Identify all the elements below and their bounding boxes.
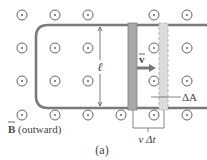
field-dot-icon bbox=[87, 14, 89, 16]
field-dot-icon bbox=[186, 47, 188, 49]
field-dot-icon bbox=[54, 114, 56, 116]
field-dot-icon bbox=[186, 80, 188, 82]
field-dot-icon bbox=[153, 114, 155, 116]
field-dot-icon bbox=[153, 14, 155, 16]
field-dot-icon bbox=[21, 80, 23, 82]
b-direction-label: (outward) bbox=[18, 123, 62, 136]
field-dot-icon bbox=[153, 80, 155, 82]
sliding-rod bbox=[128, 23, 137, 110]
length-label: ℓ bbox=[98, 60, 103, 74]
field-dot-icon bbox=[120, 114, 122, 116]
delta-area-annotation: ΔA bbox=[151, 91, 197, 103]
field-dot-icon bbox=[186, 14, 188, 16]
delta-area-label: ΔA bbox=[182, 91, 197, 103]
field-dot-icon bbox=[21, 47, 23, 49]
moving-rod-diagram: ℓ v ΔA v Δt B (outward) (a) bbox=[0, 0, 207, 160]
displacement-label: v Δt bbox=[138, 133, 156, 145]
field-dot-icon bbox=[87, 114, 89, 116]
figure-label: (a) bbox=[95, 143, 108, 157]
field-dot-icon bbox=[153, 47, 155, 49]
field-dot-icon bbox=[54, 47, 56, 49]
velocity-label: v bbox=[139, 53, 145, 65]
field-label: B (outward) bbox=[8, 122, 62, 136]
field-dot-icon bbox=[87, 80, 89, 82]
field-dot-icon bbox=[87, 47, 89, 49]
field-dot-icon bbox=[54, 80, 56, 82]
field-dot-icon bbox=[54, 14, 56, 16]
field-dot-icon bbox=[186, 114, 188, 116]
length-dimension: ℓ bbox=[95, 27, 105, 106]
b-symbol: B bbox=[8, 123, 16, 135]
field-dot-icon bbox=[21, 14, 23, 16]
velocity-arrow: v bbox=[137, 53, 156, 72]
field-dot-icon bbox=[21, 114, 23, 116]
